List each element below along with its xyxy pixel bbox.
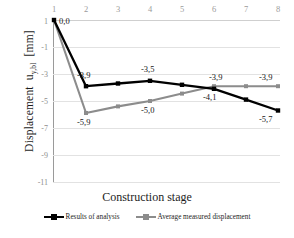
data-label-stage8-analysis: -5,7 <box>259 114 272 124</box>
plot-area: 0,0 -3,9 -3,5 -4,1 -5,7 -5,9 -5,0 -3,9 -… <box>53 20 280 183</box>
x-tick-2: 2 <box>77 4 95 14</box>
x-tick-6: 6 <box>205 4 223 14</box>
y-tick-m3: -3 <box>26 70 48 79</box>
data-label-stage1-analysis: 0,0 <box>59 16 70 26</box>
y-tick-m7: -7 <box>26 124 48 133</box>
legend-label-results-of-analysis: Results of analysis <box>66 213 120 221</box>
x-tick-3: 3 <box>109 4 127 14</box>
data-label-stage4-measured: -5,0 <box>141 105 154 115</box>
y-tick-m5: -5 <box>26 97 48 106</box>
data-label-stage8-measured: -3,9 <box>259 72 272 82</box>
legend-item-average-measured-displacement[interactable]: Average measured displacement <box>136 212 251 221</box>
legend-label-average-measured-displacement: Average measured displacement <box>158 213 251 221</box>
series-lines <box>53 20 280 183</box>
y-tick-m11: -11 <box>26 178 48 187</box>
chart-legend: Results of analysis Average measured dis… <box>0 212 294 221</box>
data-label-stage2-measured: -5,9 <box>77 117 90 127</box>
x-tick-1: 1 <box>45 4 63 14</box>
legend-marker-gray-line-icon <box>136 212 156 221</box>
legend-marker-black-line-icon <box>44 212 64 221</box>
x-tick-7: 7 <box>237 4 255 14</box>
x-tick-8: 8 <box>269 4 287 14</box>
data-label-stage6-analysis: -4,1 <box>203 92 216 102</box>
chart-container: Displacementuy,bl[mm] 1 -1 -3 -5 -7 -9 -… <box>0 0 294 238</box>
data-label-stage2-analysis: -3,9 <box>77 70 90 80</box>
x-axis-title: Construction stage <box>0 190 294 205</box>
x-tick-4: 4 <box>141 4 159 14</box>
x-tick-5: 5 <box>173 4 191 14</box>
y-tick-m1: -1 <box>26 43 48 52</box>
y-tick-m9: -9 <box>26 151 48 160</box>
series-markers-results-of-analysis <box>52 18 280 113</box>
data-label-stage4-analysis: -3,5 <box>141 64 154 74</box>
legend-item-results-of-analysis[interactable]: Results of analysis <box>44 212 120 221</box>
data-label-stage6-measured: -3,9 <box>209 72 222 82</box>
y-tick-1: 1 <box>26 17 48 26</box>
